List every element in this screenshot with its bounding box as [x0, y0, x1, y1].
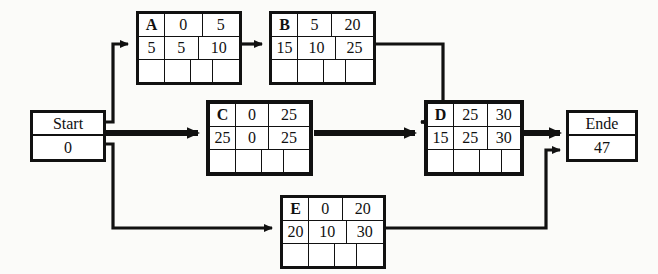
start-value: 0	[33, 136, 103, 159]
node-a-top-mid: 0	[165, 14, 203, 36]
start-label: Start	[33, 113, 103, 136]
node-e-top-right: 20	[343, 198, 384, 220]
node-a[interactable]: A 0 5 5 5 10	[136, 11, 242, 85]
node-e-top-mid: 0	[309, 198, 343, 220]
node-c-mid-mid: 0	[236, 127, 269, 149]
node-e-bottom-3	[335, 244, 357, 266]
ende-label: Ende	[569, 113, 635, 136]
node-a-mid-right: 10	[199, 37, 240, 59]
node-a-mid-left: 5	[139, 37, 165, 59]
edge-start-to-a	[104, 44, 128, 122]
node-e-bottom-4	[357, 244, 383, 266]
node-a-bottom-4	[213, 60, 239, 82]
node-c-bottom-2	[236, 150, 262, 172]
node-a-row-mid: 5 5 10	[139, 37, 239, 60]
node-b-mid-left: 15	[272, 37, 298, 59]
node-d-bottom-3	[480, 150, 502, 172]
node-d-bottom-1	[428, 150, 454, 172]
node-e-mid-mid: 10	[309, 221, 347, 243]
node-d[interactable]: D 25 30 15 25 30	[424, 100, 524, 176]
node-a-top-right: 5	[203, 14, 240, 36]
node-a-bottom-1	[139, 60, 165, 82]
node-c-row-mid: 25 0 25	[210, 127, 309, 150]
node-d-bottom-2	[454, 150, 480, 172]
node-d-row-bottom	[428, 150, 520, 172]
node-b-row-bottom	[272, 60, 373, 82]
node-b-row-mid: 15 10 25	[272, 37, 373, 60]
node-e-row-bottom	[283, 244, 383, 266]
node-d-mid-left: 15	[428, 127, 454, 149]
node-b-top-mid: 5	[298, 14, 332, 36]
node-b-bottom-4	[346, 60, 373, 82]
node-d-row-top: D 25 30	[428, 104, 520, 127]
node-d-row-mid: 15 25 30	[428, 127, 520, 150]
node-a-bottom-2	[165, 60, 191, 82]
node-b-bottom-2	[298, 60, 324, 82]
node-c-bottom-1	[210, 150, 236, 172]
node-a-row-bottom	[139, 60, 239, 82]
node-b[interactable]: B 5 20 15 10 25	[269, 11, 376, 85]
node-a-mid-mid: 5	[165, 37, 199, 59]
network-diagram: Start 0 A 0 5 5 5 10 B 5 20 15 10	[0, 0, 658, 274]
node-c[interactable]: C 0 25 25 0 25	[206, 100, 313, 176]
node-b-bottom-3	[324, 60, 346, 82]
node-e-mid-left: 20	[283, 221, 309, 243]
node-e-row-top: E 0 20	[283, 198, 383, 221]
node-b-bottom-1	[272, 60, 298, 82]
node-b-name: B	[272, 14, 298, 36]
node-c-bottom-4	[284, 150, 309, 172]
node-e[interactable]: E 0 20 20 10 30	[280, 195, 386, 269]
node-c-row-bottom	[210, 150, 309, 172]
node-d-bottom-4	[502, 150, 520, 172]
node-e-name: E	[283, 198, 309, 220]
node-c-bottom-3	[262, 150, 284, 172]
node-a-bottom-3	[191, 60, 213, 82]
node-b-row-top: B 5 20	[272, 14, 373, 37]
node-c-name: C	[210, 104, 236, 126]
node-a-row-top: A 0 5	[139, 14, 239, 37]
node-d-top-right: 30	[488, 104, 521, 126]
node-c-mid-left: 25	[210, 127, 236, 149]
node-d-mid-mid: 25	[454, 127, 488, 149]
node-b-mid-right: 25	[336, 37, 373, 59]
node-c-mid-right: 25	[269, 127, 309, 149]
node-b-mid-mid: 10	[298, 37, 336, 59]
node-e-row-mid: 20 10 30	[283, 221, 383, 244]
node-e-mid-right: 30	[347, 221, 384, 243]
node-c-row-top: C 0 25	[210, 104, 309, 127]
node-a-name: A	[139, 14, 165, 36]
node-d-mid-right: 30	[488, 127, 521, 149]
node-d-name: D	[428, 104, 454, 126]
node-e-bottom-1	[283, 244, 309, 266]
node-c-top-right: 25	[269, 104, 309, 126]
node-start[interactable]: Start 0	[30, 110, 106, 162]
node-b-top-right: 20	[332, 14, 373, 36]
node-ende[interactable]: Ende 47	[566, 110, 638, 162]
ende-value: 47	[569, 136, 635, 159]
node-c-top-mid: 0	[236, 104, 269, 126]
node-d-top-mid: 25	[454, 104, 488, 126]
node-e-bottom-2	[309, 244, 335, 266]
